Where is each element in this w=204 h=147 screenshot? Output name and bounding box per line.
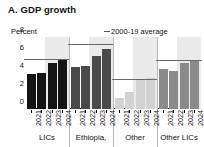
x-tick-label: 2023 <box>92 110 101 132</box>
legend-label: 2000-19 average <box>111 27 168 36</box>
x-tick-mark-icon <box>52 110 53 113</box>
bar-group-bars <box>71 37 111 109</box>
x-tick-mark-icon <box>140 110 141 113</box>
y-tick-label: 4 <box>20 62 24 70</box>
bar[interactable] <box>115 98 124 109</box>
x-tick-mark-icon <box>184 110 185 113</box>
legend: 2000-19 average <box>104 27 168 36</box>
bar-group <box>115 37 155 109</box>
bar[interactable] <box>37 73 46 109</box>
bar[interactable] <box>102 49 111 109</box>
x-tick-mark-icon <box>75 110 76 113</box>
x-tick-label: 2022 <box>169 110 178 132</box>
x-tick-label: 2021 <box>71 110 80 132</box>
bar[interactable] <box>169 71 178 109</box>
x-tick-label-row: 2021202220232024202120222023202420212022… <box>27 110 199 132</box>
x-tick-mark-icon <box>41 110 42 113</box>
x-tick-mark-icon <box>194 110 195 113</box>
x-tick-label: 2022 <box>81 110 90 132</box>
bar[interactable] <box>146 78 155 109</box>
plot-area: 02468 <box>27 37 199 109</box>
bar[interactable] <box>159 69 168 110</box>
x-tick-group: 2021202220232024 <box>115 110 155 132</box>
x-tick-mark-icon <box>31 110 32 113</box>
x-tick-label: 2024 <box>146 110 155 132</box>
plot-inner: 02468 <box>27 37 199 109</box>
bar-group <box>27 37 67 109</box>
x-tick-label: 2023 <box>48 110 57 132</box>
bar-group-bars <box>27 37 67 109</box>
x-tick-group: 2021202220232024 <box>27 110 67 132</box>
average-line-swatch-icon <box>104 31 110 32</box>
x-tick-mark-icon <box>62 110 63 113</box>
x-tick-label-text: 2024 <box>197 110 204 126</box>
group-label: Ethiopia, <box>71 132 111 143</box>
bar[interactable] <box>190 60 199 110</box>
average-reference-line <box>156 60 202 61</box>
page-title: A. GDP growth <box>8 4 76 15</box>
x-tick-label: 2022 <box>37 110 46 132</box>
x-tick-group: 2021202220232024 <box>71 110 111 132</box>
x-tick-label: 2023 <box>180 110 189 132</box>
y-tick-label: 0 <box>20 98 24 106</box>
x-tick-group: 2021202220232024 <box>159 110 199 132</box>
x-tick-mark-icon <box>163 110 164 113</box>
bar-group-bars <box>159 37 199 109</box>
bar[interactable] <box>136 79 145 109</box>
x-tick-mark-icon <box>150 110 151 113</box>
x-tick-label: 2021 <box>27 110 36 132</box>
y-tick-label: 2 <box>20 80 24 88</box>
x-tick-mark-icon <box>85 110 86 113</box>
x-tick-label: 2024 <box>102 110 111 132</box>
bar[interactable] <box>125 92 134 109</box>
x-tick-label: 2021 <box>115 110 124 132</box>
average-reference-line <box>24 59 70 60</box>
bar[interactable] <box>180 63 189 109</box>
group-label: Other LICs <box>159 132 199 143</box>
y-tick-label: 6 <box>20 44 24 52</box>
bar-group <box>71 37 111 109</box>
group-label: LICs <box>27 132 67 143</box>
x-tick-mark-icon <box>119 110 120 113</box>
x-tick-mark-icon <box>173 110 174 113</box>
average-reference-line <box>68 44 114 45</box>
x-tick-mark-icon <box>96 110 97 113</box>
x-tick-label: 2021 <box>159 110 168 132</box>
bar[interactable] <box>27 74 36 109</box>
bar[interactable] <box>71 67 80 109</box>
x-tick-label: 2023 <box>136 110 145 132</box>
gdp-growth-figure: A. GDP growth Percent 2000-19 average 02… <box>0 0 204 147</box>
group-label-row: LICsEthiopia,OtherOther LICs <box>27 132 199 147</box>
bar-group <box>159 37 199 109</box>
bar-group-bars <box>115 37 155 109</box>
bar[interactable] <box>81 66 90 109</box>
x-tick-label: 2024 <box>58 110 67 132</box>
group-label: Other <box>115 132 155 143</box>
x-tick-label: 2024 <box>190 110 199 132</box>
y-tick-label: 8 <box>20 26 24 34</box>
x-tick-mark-icon <box>129 110 130 113</box>
average-reference-line <box>112 79 158 80</box>
bar[interactable] <box>58 60 67 109</box>
x-tick-mark-icon <box>106 110 107 113</box>
x-tick-label: 2022 <box>125 110 134 132</box>
bar[interactable] <box>92 56 101 109</box>
bar[interactable] <box>48 63 57 109</box>
